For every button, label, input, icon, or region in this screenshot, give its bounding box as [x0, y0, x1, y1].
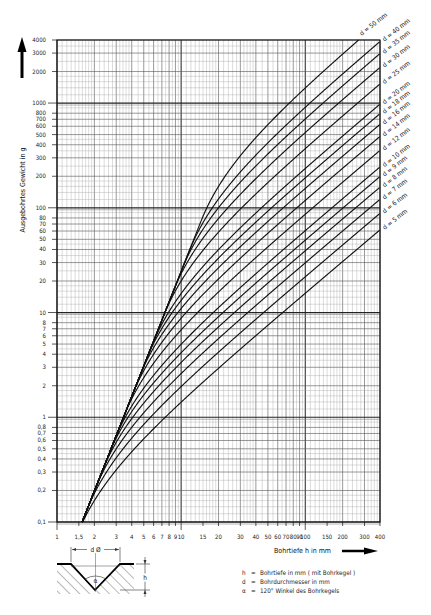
x-tick-label: 1,5 — [75, 533, 84, 540]
h-dimension-label: h — [143, 574, 147, 582]
x-axis-title-group: Bohrtiefe h in mm — [274, 547, 378, 555]
drill-weight-chart: 0,10,20,30,40,50,60,70,81234567810203040… — [0, 0, 431, 615]
curve-d35 — [82, 54, 379, 522]
curve-d40 — [82, 42, 379, 522]
y-tick-label: 0,4 — [37, 455, 46, 462]
x-tick-label: 15 — [200, 533, 207, 540]
curve-d16 — [82, 125, 379, 522]
legend-row-alpha: α=120° Winkel des Bohrkegels — [242, 586, 355, 595]
x-tick-label: 200 — [337, 533, 348, 540]
y-tick-label: 0,7 — [37, 429, 46, 436]
y-tick-label: 80 — [39, 214, 46, 221]
curve-d5 — [83, 230, 380, 522]
y-tick-label: 7 — [43, 325, 46, 332]
x-tick-label: 20 — [215, 533, 222, 540]
y-tick-label: 4000 — [32, 36, 46, 43]
x-tick-label: 60 — [274, 533, 281, 540]
curve-d12 — [82, 151, 379, 522]
y-tick-label: 50 — [39, 235, 46, 242]
y-tick-label: 500 — [36, 131, 47, 138]
alpha-label: α — [94, 577, 98, 585]
x-tick-label: 40 — [252, 533, 259, 540]
y-tick-label: 20 — [39, 277, 46, 284]
y-tick-label: 3000 — [32, 49, 46, 56]
y-tick-label: 300 — [36, 154, 47, 161]
symbol-legend: h=Bohrtiefe in mm ( mit Bohrkegel ) d=Bo… — [242, 568, 355, 595]
y-tick-label: 10 — [39, 309, 46, 316]
x-tick-label: 400 — [375, 533, 386, 540]
legend-row-d: d=Bohrdurchmesser in mm — [242, 577, 355, 586]
y-tick-label: 0,8 — [37, 423, 46, 430]
y-tick-label: 5 — [43, 340, 46, 347]
y-tick-label: 4 — [43, 350, 47, 357]
y-tick-label: 0,2 — [37, 486, 46, 493]
curve-d10 — [82, 167, 379, 522]
y-tick-label: 1000 — [32, 99, 46, 106]
y-tick-label: 70 — [39, 220, 46, 227]
x-tick-label: 100 — [300, 533, 311, 540]
y-tick-label: 600 — [36, 122, 47, 129]
y-tick-label: 8 — [43, 319, 47, 326]
curve-d7 — [82, 200, 379, 522]
curve-d14 — [82, 137, 379, 522]
y-tick-label: 6 — [43, 332, 47, 339]
curve-d9 — [82, 177, 379, 522]
y-tick-label: 2 — [43, 382, 46, 389]
y-axis-title: Ausgebohrtes Gewicht in g — [19, 148, 27, 233]
right-arrow-head-icon — [364, 548, 378, 555]
up-arrow-head-icon — [18, 37, 27, 52]
y-tick-label: 0,3 — [37, 468, 46, 475]
y-tick-label: 100 — [36, 204, 47, 211]
y-tick-label: 0,1 — [37, 518, 46, 525]
y-tick-label: 200 — [36, 172, 47, 179]
x-tick-label: 300 — [359, 533, 370, 540]
x-tick-label: 8 — [167, 533, 171, 540]
y-tick-label: 40 — [39, 245, 46, 252]
y-tick-label: 0,6 — [37, 436, 46, 443]
x-tick-label: 7 — [160, 533, 163, 540]
y-tick-label: 60 — [39, 227, 46, 234]
y-tick-label: 1 — [43, 413, 46, 420]
y-tick-label: 30 — [39, 259, 46, 266]
d-dimension-label: d Ø — [90, 546, 101, 554]
y-tick-label: 2000 — [32, 68, 46, 75]
y-axis-title-group: Ausgebohrtes Gewicht in g — [18, 37, 28, 232]
curve-d30 — [82, 68, 379, 522]
y-tick-label: 800 — [36, 109, 47, 116]
y-axis-ticks: 0,10,20,30,40,50,60,70,81234567810203040… — [32, 36, 57, 525]
legend-row-h: h=Bohrtiefe in mm ( mit Bohrkegel ) — [242, 568, 355, 577]
x-tick-label: 1 — [55, 533, 58, 540]
y-tick-label: 3 — [43, 363, 46, 370]
drill-hole-diagram: d Ø α h — [57, 546, 150, 597]
y-tick-label: 700 — [36, 115, 47, 122]
x-tick-label: 10 — [178, 533, 185, 540]
x-tick-label: 30 — [237, 533, 244, 540]
x-tick-label: 150 — [322, 533, 333, 540]
x-tick-label: 4 — [130, 533, 134, 540]
x-tick-label: 50 — [264, 533, 271, 540]
x-tick-label: 5 — [142, 533, 145, 540]
x-axis-title: Bohrtiefe h in mm — [274, 547, 331, 555]
x-tick-label: 6 — [152, 533, 156, 540]
y-tick-label: 400 — [36, 141, 47, 148]
y-tick-label: 0,5 — [37, 445, 46, 452]
curve-d6 — [82, 214, 379, 522]
x-tick-label: 2 — [93, 533, 96, 540]
x-tick-label: 3 — [115, 533, 118, 540]
curve-d25 — [82, 84, 379, 522]
x-axis-ticks: 11,5234567891015203040506070809010015020… — [55, 522, 385, 540]
grid-lines — [57, 40, 380, 524]
